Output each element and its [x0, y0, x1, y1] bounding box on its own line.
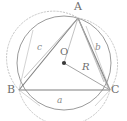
circumcenter-dot — [62, 61, 66, 65]
circumscribed-triangle-diagram — [0, 0, 127, 121]
vertex-label-a: A — [74, 1, 82, 12]
vertex-label-c: C — [111, 84, 119, 95]
arc-a-dotted — [19, 90, 110, 121]
chord-A-to-B-edge — [24, 18, 78, 78]
side-label-a: a — [57, 96, 62, 105]
chord-B-to-bottom — [19, 90, 40, 106]
radius-label-r: R — [82, 62, 90, 72]
side-label-c: c — [37, 43, 42, 52]
chord-C-to-upper-left — [86, 26, 110, 90]
geometry-figure: A B C O R c b a — [0, 0, 127, 121]
vertex-label-b: B — [7, 84, 15, 95]
side-c-segment-AB — [19, 18, 78, 90]
arc-b-dotted — [78, 18, 118, 90]
chord-C-to-bottom — [95, 90, 110, 106]
side-label-b: b — [95, 43, 101, 52]
center-label-o: O — [60, 47, 68, 57]
chord-A-to-C-inner — [78, 18, 108, 88]
